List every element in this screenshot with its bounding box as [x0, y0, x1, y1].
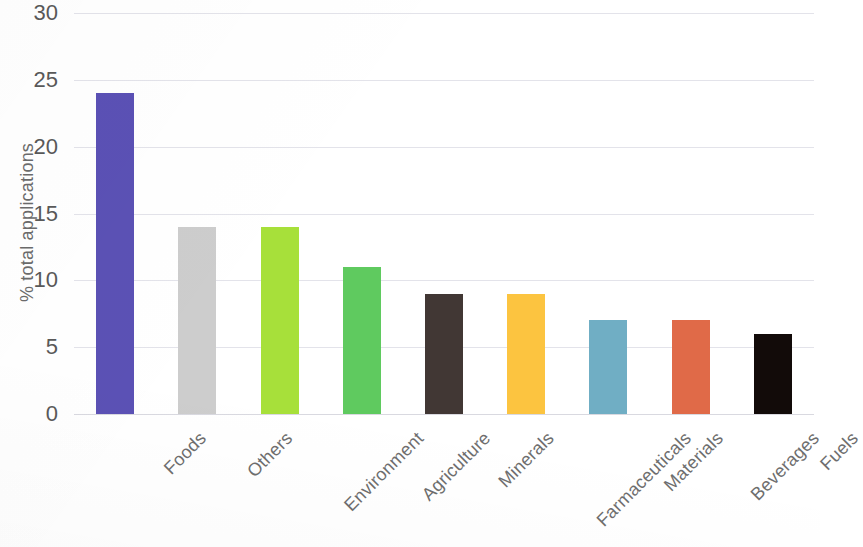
y-axis-tick-label: 20	[34, 134, 58, 160]
x-axis-tick-label: Environment	[340, 428, 428, 516]
x-axis-tick-label: Minerals	[494, 428, 558, 492]
y-axis-tick-label: 15	[34, 201, 58, 227]
x-axis-tick-label: Others	[244, 428, 298, 482]
bar	[96, 93, 134, 414]
bars-layer	[74, 13, 814, 414]
bar	[672, 320, 710, 414]
x-axis-tick-label: Foods	[160, 428, 211, 479]
bar	[425, 294, 463, 414]
y-axis-tick-label: 5	[46, 334, 58, 360]
x-axis-tick-label: Agriculture	[418, 428, 495, 505]
bar	[261, 227, 299, 414]
bar	[178, 227, 216, 414]
y-axis-tick-label: 25	[34, 67, 58, 93]
x-axis-tick-label: Beverages	[746, 428, 823, 505]
y-axis-tick-label: 0	[46, 401, 58, 427]
bar	[589, 320, 627, 414]
y-axis-tick-label: 10	[34, 267, 58, 293]
bar	[343, 267, 381, 414]
plot-area: 302520151050	[74, 13, 814, 414]
x-axis-tick-label: Fuels	[816, 428, 863, 475]
x-axis-labels: FoodsOthersEnvironmentAgricultureMineral…	[74, 414, 814, 547]
bar	[507, 294, 545, 414]
y-axis-tick-label: 30	[34, 0, 58, 26]
bar	[754, 334, 792, 414]
